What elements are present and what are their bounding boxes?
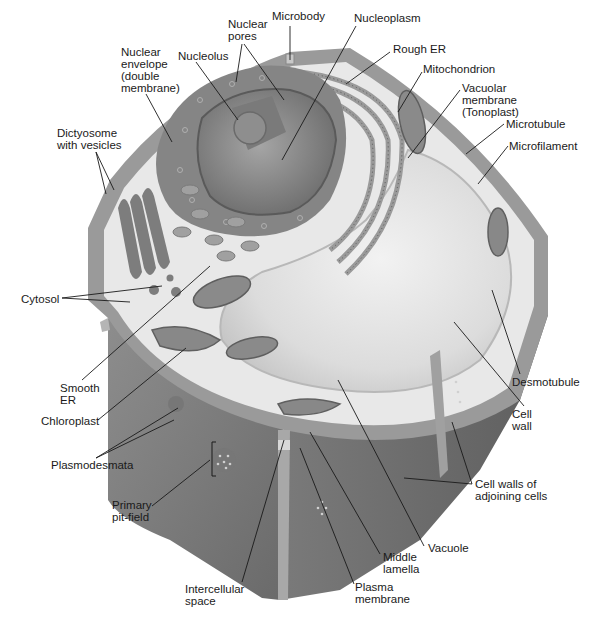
label-nucleoplasm: Nucleoplasm [354,12,420,24]
label-desmotubule: Desmotubule [512,376,580,388]
label-plasmodesmata: Plasmodesmata [51,459,133,471]
label-middle-lamella: Middle lamella [383,551,419,575]
label-rough-er: Rough ER [393,43,446,55]
label-chloroplast: Chloroplast [41,415,99,427]
label-vacuole: Vacuole [428,542,469,554]
label-primary-pit-field: Primary pit-field [112,499,152,523]
label-mitochondrion: Mitochondrion [423,63,495,75]
label-intercellular-space: Intercellular space [185,583,244,607]
label-nucleolus: Nucleolus [178,50,229,62]
label-cell-walls-adjoining: Cell walls of adjoining cells [475,478,547,502]
label-cytosol: Cytosol [21,293,59,305]
label-dictyosome: Dictyosome with vesicles [57,127,122,151]
label-smooth-er: Smooth ER [60,382,100,406]
label-plasma-membrane: Plasma membrane [355,581,410,605]
label-microfilament: Microfilament [509,140,577,152]
label-vacuolar-membrane: Vacuolar membrane (Tonoplast) [462,82,519,118]
label-cell-wall: Cell wall [512,408,532,432]
nucleus [156,66,346,237]
label-nuclear-envelope: Nuclear envelope (double membrane) [121,46,180,94]
label-microbody: Microbody [272,10,325,22]
label-microtubule: Microtubule [506,118,565,130]
label-nuclear-pores: Nuclear pores [228,18,268,42]
